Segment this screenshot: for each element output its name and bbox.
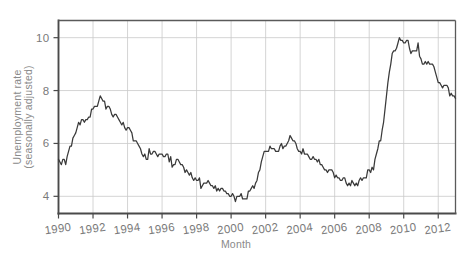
y-tick-label: 4 <box>43 190 50 202</box>
y-tick-label: 6 <box>43 137 50 149</box>
x-tick-label: 1990 <box>44 221 72 237</box>
x-tick-label: 2008 <box>355 221 383 237</box>
y-axis-title-line2: (seasonally adjusted) <box>22 65 34 168</box>
y-tick-label: 10 <box>36 32 49 44</box>
x-tick-label: 2004 <box>285 221 313 237</box>
x-tick-label: 1998 <box>182 221 210 237</box>
x-tick-label: 2006 <box>320 221 348 237</box>
unemployment-rate-line <box>59 38 456 202</box>
gridlines-vertical <box>59 21 439 214</box>
x-tick-label: 2002 <box>251 221 279 237</box>
x-tick-label: 2012 <box>424 221 452 237</box>
x-axis-tick-labels: 1990199219941996199820002002200420062008… <box>44 221 452 237</box>
unemployment-rate-chart: 46810 1990199219941996199820002002200420… <box>0 0 473 256</box>
x-tick-label: 2010 <box>389 221 417 237</box>
x-tick-label: 1996 <box>147 221 175 237</box>
x-tick-label: 1992 <box>78 221 106 237</box>
x-tick-label: 2000 <box>216 221 244 237</box>
chart-canvas: 46810 1990199219941996199820002002200420… <box>0 0 473 256</box>
x-axis-title: Month <box>221 238 251 250</box>
y-axis-title: Unemployment rate (seasonally adjusted) <box>11 65 34 168</box>
y-axis-tick-labels: 46810 <box>36 32 50 203</box>
y-tick-label: 8 <box>43 85 50 97</box>
x-tick-label: 1994 <box>113 221 141 237</box>
